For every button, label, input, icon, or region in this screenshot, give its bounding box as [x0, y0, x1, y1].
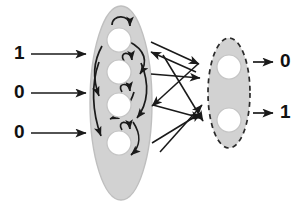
input-label-1: 0	[14, 81, 25, 102]
input-label-2: 0	[14, 121, 25, 142]
output-label-0: 0	[280, 50, 291, 71]
reservoir-to-readout-connections	[151, 42, 203, 152]
input-layer: 1 0 0	[14, 42, 86, 142]
connection-6	[151, 52, 196, 72]
connection-4	[152, 113, 201, 143]
readout-ellipse	[208, 38, 250, 148]
reservoir-node-1	[107, 28, 131, 52]
network-diagram: 1 0 0	[0, 0, 301, 215]
reservoir-node-4	[107, 131, 131, 155]
connection-1	[151, 42, 199, 64]
reservoir-node-2	[107, 60, 131, 84]
diagram-canvas: 1 0 0	[0, 0, 301, 215]
output-label-1: 1	[280, 101, 291, 122]
output-layer: 0 1	[253, 50, 291, 122]
input-label-0: 1	[14, 42, 25, 63]
reservoir-node-3	[107, 93, 131, 117]
readout-node-2	[217, 108, 241, 132]
readout-node-1	[217, 55, 241, 79]
reservoir-ellipse	[90, 6, 152, 200]
